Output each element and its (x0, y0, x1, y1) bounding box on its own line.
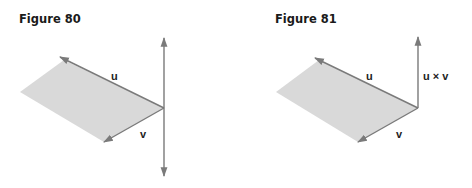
figure-80-diagram: u v (20, 38, 164, 176)
label-v: v (140, 128, 147, 140)
label-u-cross-v: u × v (423, 70, 449, 82)
label-u: u (111, 70, 118, 82)
diagrams: u v u v u × v (0, 0, 472, 188)
label-v: v (396, 128, 403, 140)
figure-81-diagram: u v u × v (276, 37, 449, 142)
label-u: u (366, 70, 373, 82)
